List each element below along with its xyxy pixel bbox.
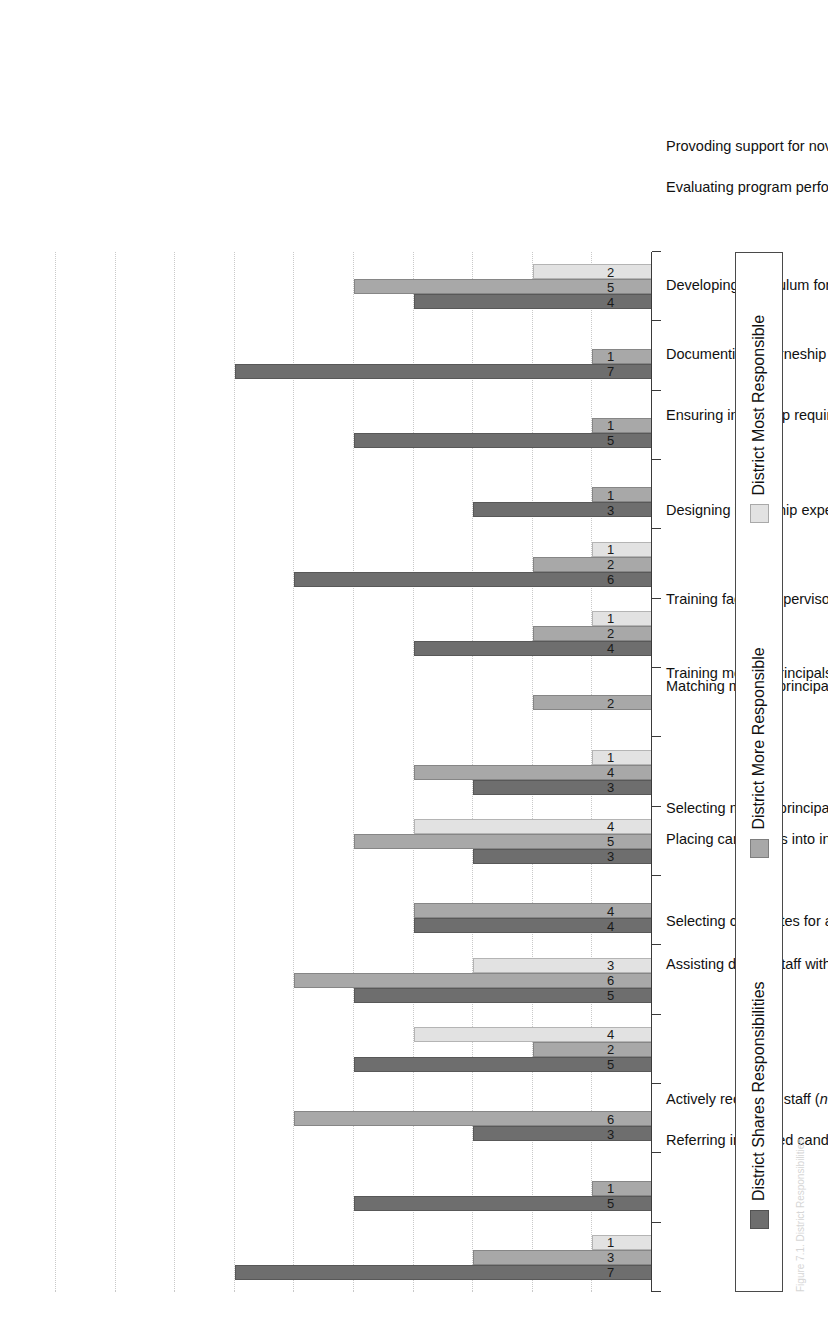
bar: 3	[473, 958, 652, 973]
bar: 2	[533, 1042, 652, 1057]
bar-value-label: 1	[607, 612, 614, 625]
legend-item[interactable]: District Most Responsible	[750, 315, 769, 524]
bar: 4	[414, 294, 652, 309]
rotated-figure-wrapper: 7315136524563443543412421621315171452 Re…	[0, 0, 828, 1322]
bar-group: 621	[56, 529, 652, 598]
bar-value-label: 2	[607, 1043, 614, 1056]
bar-value-label: 5	[607, 989, 614, 1002]
bar: 3	[473, 780, 652, 795]
bar-value-label: 2	[607, 696, 614, 709]
bar-group: 51	[56, 391, 652, 460]
axis-tick	[652, 598, 661, 599]
bar: 5	[354, 433, 652, 448]
bar-value-label: 1	[607, 751, 614, 764]
bar-value-label: 1	[607, 419, 614, 432]
legend-label: District More Responsible	[750, 647, 768, 829]
bar-value-label: 4	[607, 904, 614, 917]
bar: 4	[414, 903, 652, 918]
bar: 5	[354, 279, 652, 294]
axis-tick	[652, 1222, 661, 1223]
legend-label: District Most Responsible	[750, 315, 768, 496]
bar-group: 31	[56, 460, 652, 529]
axis-tick	[652, 667, 661, 668]
legend-item[interactable]: District Shares Responsibilities	[750, 981, 769, 1229]
bar-value-label: 7	[607, 1266, 614, 1279]
bar-group: 51	[56, 1153, 652, 1222]
axis-tick	[652, 251, 661, 252]
bar-value-label: 6	[607, 573, 614, 586]
bar-value-label: 2	[607, 265, 614, 278]
bar-value-label: 1	[607, 543, 614, 556]
legend-swatch	[750, 839, 769, 858]
bar: 6	[294, 572, 652, 587]
bar: 1	[592, 542, 652, 557]
bar-value-label: 1	[607, 1182, 614, 1195]
category-label-text: Provoding support for novica principals …	[666, 139, 828, 154]
axis-tick	[652, 944, 661, 945]
legend-swatch	[750, 1210, 769, 1229]
axis-tick	[652, 1083, 661, 1084]
legend-item[interactable]: District More Responsible	[750, 647, 769, 857]
bar: 4	[414, 641, 652, 656]
bar-group: 36	[56, 1084, 652, 1153]
category-label-text: Evaluating program performance and outco…	[666, 180, 828, 195]
bar: 4	[414, 819, 652, 834]
bar: 1	[592, 1235, 652, 1250]
bar-group: 421	[56, 599, 652, 668]
bar-value-label: 4	[607, 642, 614, 655]
bar: 2	[533, 264, 652, 279]
bar-value-label: 5	[607, 1197, 614, 1210]
bar: 3	[473, 502, 652, 517]
bar: 5	[354, 1057, 652, 1072]
bar-value-label: 4	[607, 820, 614, 833]
bar-value-label: 1	[607, 1236, 614, 1249]
bar-value-label: 1	[607, 350, 614, 363]
bar-group: 524	[56, 1015, 652, 1084]
bar-group: 2	[56, 668, 652, 737]
bar-value-label: 4	[607, 295, 614, 308]
bar-group: 731	[56, 1223, 652, 1292]
bar-group: 452	[56, 252, 652, 321]
bar-group: 44	[56, 876, 652, 945]
bar-group: 341	[56, 737, 652, 806]
axis-tick	[652, 1014, 661, 1015]
bar-value-label: 4	[607, 1028, 614, 1041]
bar: 1	[592, 349, 652, 364]
bar-groups: 7315136524563443543412421621315171452	[56, 252, 652, 1292]
bar: 4	[414, 918, 652, 933]
bar: 5	[354, 988, 652, 1003]
bar-value-label: 3	[607, 781, 614, 794]
bar: 1	[592, 487, 652, 502]
bar: 1	[592, 418, 652, 433]
bar-value-label: 2	[607, 627, 614, 640]
bar-value-label: 5	[607, 280, 614, 293]
axis-tick	[652, 1291, 661, 1292]
category-axis-line	[651, 252, 652, 1292]
bar: 1	[592, 611, 652, 626]
bar-value-label: 4	[607, 766, 614, 779]
bar: 2	[533, 557, 652, 572]
legend-swatch	[750, 504, 769, 523]
bar: 2	[533, 626, 652, 641]
plot-area: 7315136524563443543412421621315171452	[56, 252, 652, 1292]
bar: 3	[473, 849, 652, 864]
axis-tick	[652, 1152, 661, 1153]
bar: 3	[473, 1126, 652, 1141]
bar: 4	[414, 1027, 652, 1042]
axis-tick	[652, 875, 661, 876]
bar-group: 71	[56, 321, 652, 390]
bar: 2	[533, 695, 652, 710]
bar-value-label: 6	[607, 1112, 614, 1125]
bar-chart-figure: 7315136524563443543412421621315171452 Re…	[0, 0, 828, 1322]
axis-tick	[652, 459, 661, 460]
bar: 5	[354, 1196, 652, 1211]
bar-value-label: 5	[607, 1058, 614, 1071]
bar-value-label: 3	[607, 503, 614, 516]
axis-tick	[652, 528, 661, 529]
bar: 5	[354, 834, 652, 849]
bar: 4	[414, 765, 652, 780]
axis-tick	[652, 390, 661, 391]
bar-value-label: 3	[607, 1251, 614, 1264]
bar: 6	[294, 973, 652, 988]
bar-value-label: 2	[607, 558, 614, 571]
